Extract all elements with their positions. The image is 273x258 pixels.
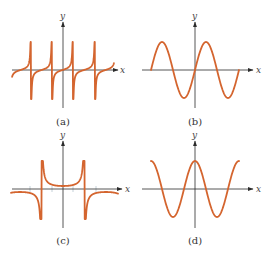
y-axis-label: y <box>59 11 66 21</box>
panel-a: x y (a) <box>12 11 125 127</box>
panel-caption: (d) <box>188 235 202 246</box>
panel-caption: (c) <box>56 235 70 246</box>
panel-caption: (a) <box>56 116 70 127</box>
x-axis-label: x <box>120 65 125 75</box>
y-axis-label: y <box>59 130 66 140</box>
function-graphs-figure: x y (a) x y (b) x y (c) x y (d) <box>0 0 273 258</box>
x-axis-label: x <box>256 184 261 194</box>
y-axis-label: y <box>191 11 198 21</box>
x-axis-label: x <box>256 65 261 75</box>
panel-caption: (b) <box>188 116 202 127</box>
x-axis-label: x <box>125 184 130 194</box>
panel-c: x y (c) <box>11 130 130 246</box>
y-axis-label: y <box>191 130 198 140</box>
panel-b: x y (b) <box>142 11 261 127</box>
curve-c <box>11 161 118 219</box>
panel-d: x y (d) <box>142 130 261 246</box>
